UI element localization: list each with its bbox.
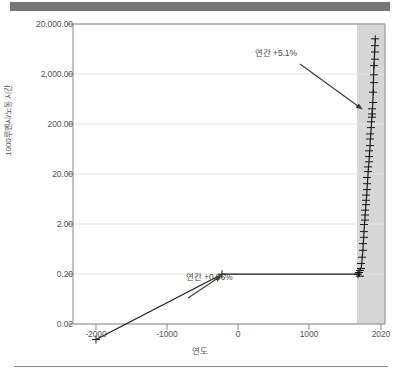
- y-tick-label: 0.20: [57, 269, 73, 279]
- y-tick-label: 2,000.00: [41, 69, 73, 79]
- x-tick-label: 2020: [372, 329, 391, 339]
- x-tick-label: -2000: [85, 329, 106, 339]
- annotation-label-low: 연간 +0.06%: [186, 270, 233, 282]
- chart-plot-area: [0, 14, 400, 362]
- top-banner: [10, 2, 390, 11]
- y-tick-label: 20.00: [52, 169, 73, 179]
- annotation-label-high: 연간 +5.1%: [255, 46, 297, 58]
- x-tick-label: -1000: [156, 329, 177, 339]
- x-tick-label: 0: [236, 329, 241, 339]
- y-tick-label: 2.00: [57, 219, 73, 229]
- y-tick-label: 200.00: [48, 119, 73, 129]
- y-tick-label: 0.02: [57, 319, 73, 329]
- x-tick-label: 1000: [300, 329, 319, 339]
- chart-figure: 20,000.00 2,000.00 200.00 20.00 2.00 0.2…: [0, 14, 400, 362]
- y-tick-label: 20,000.00: [36, 19, 73, 29]
- y-axis-title: 1000루멘시/노동 시간: [2, 132, 13, 150]
- y-axis-title-text: 1000루멘시/노동 시간: [2, 138, 13, 156]
- bottom-divider: [14, 366, 388, 367]
- x-axis-title: 연도: [0, 344, 400, 356]
